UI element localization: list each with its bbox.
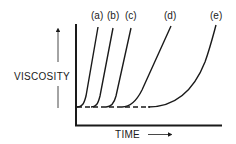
curve-label-a: (a): [91, 10, 103, 21]
viscosity-time-chart: VISCOSITY TIME (a) (b) (c) (d) (e): [0, 0, 236, 144]
y-axis-label: VISCOSITY: [14, 71, 70, 82]
curve-c: [106, 28, 131, 107]
curve-label-b: (b): [107, 10, 119, 21]
curve-label-d: (d): [164, 10, 176, 21]
curve-a: [77, 27, 98, 107]
x-axis-label: TIME: [115, 129, 140, 140]
chart-canvas: VISCOSITY TIME (a) (b) (c) (d) (e): [0, 0, 236, 144]
curve-e: [148, 25, 216, 107]
curve-b: [91, 28, 113, 107]
curve-label-e: (e): [210, 10, 222, 21]
curve-label-c: (c): [125, 10, 137, 21]
